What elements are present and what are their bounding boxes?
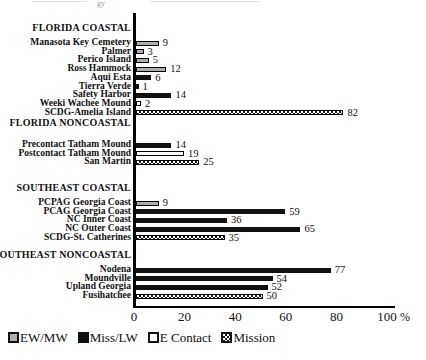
legend-item: E Contact <box>148 330 212 345</box>
value-label: 36 <box>231 214 242 225</box>
legend-item: EW/MW <box>8 330 68 345</box>
site-label: San Martin <box>84 157 131 167</box>
x-axis-unit-label: % <box>400 310 410 324</box>
value-label: 14 <box>175 89 186 100</box>
bar-ew-mw <box>136 67 166 72</box>
group-header: FLORIDA COASTAL <box>32 23 131 33</box>
legend-swatch-white-icon <box>148 332 159 343</box>
bar-miss-lw <box>136 218 227 223</box>
legend-swatch-gray-icon <box>8 332 19 343</box>
bar-miss-lw <box>136 227 300 232</box>
site-label: SCDG-Amelia Island <box>45 108 131 118</box>
value-label: 50 <box>267 290 278 301</box>
bar-miss-lw <box>136 268 331 273</box>
x-tick-label: 60 <box>273 310 299 324</box>
bar-e-contact <box>136 151 184 156</box>
group-header: SOUTHEAST NONCOASTAL <box>0 250 131 260</box>
x-tick-label: 0 <box>121 310 147 324</box>
bar-ew-mw <box>136 58 149 63</box>
legend-item: Miss/LW <box>78 330 138 345</box>
legend-swatch-black-icon <box>78 332 89 343</box>
scan-artifact-line <box>32 1 87 2</box>
value-label: 82 <box>347 107 358 118</box>
value-label: 1 <box>143 81 148 92</box>
bar-ew-mw <box>136 201 159 206</box>
legend-label: Miss/LW <box>90 330 138 345</box>
group-header: SOUTHEAST COASTAL <box>17 183 131 193</box>
bar-miss-lw <box>136 276 273 281</box>
bar-mission <box>136 160 199 165</box>
site-label: Fusihatchee <box>82 291 131 301</box>
value-label: 19 <box>188 148 199 159</box>
bar-mission <box>136 294 263 299</box>
bar-ew-mw <box>136 49 144 54</box>
x-tick-label: 80 <box>323 310 349 324</box>
bar-mission <box>136 110 343 115</box>
legend-item: Mission <box>221 330 275 345</box>
legend-label: E Contact <box>160 330 212 345</box>
value-label: 2 <box>145 98 150 109</box>
value-label: 14 <box>175 139 186 150</box>
value-label: 59 <box>289 206 300 217</box>
legend: EW/MWMiss/LWE ContactMission <box>8 330 275 345</box>
value-label: 6 <box>155 72 160 83</box>
site-label: SCDG-St. Catherines <box>44 233 131 243</box>
x-axis-line <box>133 306 395 308</box>
value-label: 9 <box>163 37 168 48</box>
bar-e-contact <box>136 101 141 106</box>
bar-mission <box>136 235 225 240</box>
value-label: 12 <box>170 63 181 74</box>
group-header: FLORIDA NONCOASTAL <box>10 118 132 128</box>
site-frequency-bar-chart: gy FLORIDA COASTALManasota Key Cemetery9… <box>0 0 426 360</box>
value-label: 5 <box>153 54 158 65</box>
value-label: 25 <box>203 156 214 167</box>
bar-miss-lw <box>136 209 285 214</box>
bar-miss-lw <box>136 285 268 290</box>
legend-label: Mission <box>233 330 275 345</box>
scan-artifact-line <box>150 1 260 2</box>
value-label: 9 <box>163 197 168 208</box>
scan-artifact-text: gy <box>97 0 105 8</box>
value-label: 65 <box>304 223 315 234</box>
bar-miss-lw <box>136 84 139 89</box>
bar-miss-lw <box>136 93 171 98</box>
x-tick-label: 20 <box>172 310 198 324</box>
legend-label: EW/MW <box>20 330 68 345</box>
value-label: 35 <box>229 232 240 243</box>
value-label: 77 <box>335 264 346 275</box>
bar-miss-lw <box>136 143 171 148</box>
legend-swatch-crosshatch-icon <box>221 332 232 343</box>
x-tick-label: 100 <box>374 310 400 324</box>
x-tick-label: 40 <box>222 310 248 324</box>
